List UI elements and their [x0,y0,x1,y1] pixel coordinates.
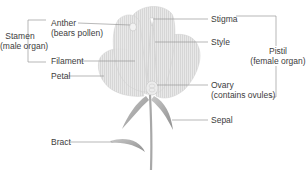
pistil-title: Pistil [248,46,308,56]
pistil-subtitle: (female organ) [248,56,308,66]
sepal-label: Sepal [211,115,233,125]
petal-label: Petal [51,71,70,81]
filament-label: Filament [51,56,84,66]
ovary-label: Ovary (contains ovules) [211,80,275,100]
anther-label: Anther (bears pollen) [51,18,103,38]
style-label: Style [211,37,230,47]
sepal-left [122,96,149,129]
stamen-title: Stamen [0,31,40,41]
anther [130,23,137,31]
sepal-right [151,96,173,130]
bract-leaf [110,139,145,152]
stamen-subtitle: (male organ) [0,41,40,51]
bract-label: Bract [51,137,71,147]
stigma-label: Stigma [211,14,237,24]
pistil-group-label: Pistil (female organ) [248,46,308,66]
stem [150,95,151,170]
stamen-group-label: Stamen (male organ) [0,31,40,51]
